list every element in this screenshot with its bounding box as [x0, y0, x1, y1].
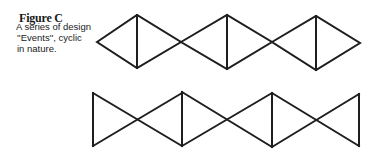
diamond-1 [97, 15, 181, 68]
diamond-3 [272, 16, 360, 70]
bowtie-1 [93, 93, 182, 146]
bowtie-2 [182, 92, 272, 147]
bowtie-3 [272, 93, 359, 147]
top-diamond-chain [97, 15, 360, 70]
bottom-bowtie-chain [93, 92, 359, 147]
diamond-2 [181, 15, 272, 69]
design-events-diagram [0, 0, 378, 152]
